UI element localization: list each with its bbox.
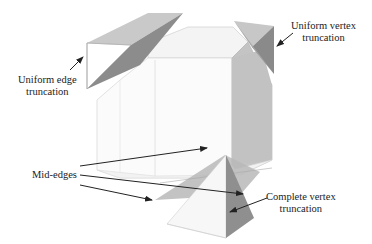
label-uniform-vertex-truncation: Uniform vertex truncation — [291, 20, 356, 44]
label-line: Complete vertex — [266, 191, 336, 203]
truncation-diagram: Uniform edge truncation Uniform vertex t… — [0, 0, 372, 244]
label-line: truncation — [291, 32, 356, 44]
arrow-mid-edge-3 — [80, 185, 152, 200]
arrow-uniform-edge — [70, 57, 83, 70]
cube-front-face — [97, 58, 232, 178]
label-line: truncation — [266, 203, 336, 215]
label-uniform-edge-truncation: Uniform edge truncation — [18, 74, 77, 98]
label-mid-edges: Mid-edges — [32, 169, 77, 181]
label-complete-vertex-truncation: Complete vertex truncation — [266, 191, 336, 215]
label-line: truncation — [18, 86, 77, 98]
label-line: Mid-edges — [32, 169, 77, 181]
label-line: Uniform edge — [18, 74, 77, 86]
label-line: Uniform vertex — [291, 20, 356, 32]
